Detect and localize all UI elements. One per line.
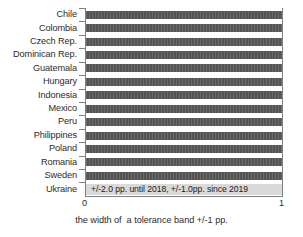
x-tick-label-0: 0 — [82, 199, 87, 208]
x-axis-tick-labels: 0 1 — [85, 199, 283, 213]
y-axis-label-czech-rep: Czech Rep. — [30, 37, 77, 46]
y-axis-label-ukraine: Ukraine — [46, 185, 77, 194]
y-axis-tick-row: Indonesia — [0, 89, 81, 102]
x-tick-label-1: 1 — [279, 199, 284, 208]
bar-slot-hungary — [86, 75, 282, 88]
y-axis-label-mexico: Mexico — [48, 104, 77, 113]
y-axis-label-poland: Poland — [49, 144, 77, 153]
bar-peru — [86, 118, 282, 126]
y-axis-tick-row: Peru — [0, 115, 81, 128]
y-axis-tick-row: Dominican Rep. — [0, 48, 81, 61]
bar-philippines — [86, 132, 282, 140]
y-axis-tick-row: Poland — [0, 142, 81, 155]
bar-mexico — [86, 105, 282, 113]
bar-ukraine: +/-2.0 pp. until 2018, +/-1.0pp. since 2… — [86, 184, 282, 195]
bar-slot-ukraine: +/-2.0 pp. until 2018, +/-1.0pp. since 2… — [86, 182, 282, 195]
bar-slot-poland — [86, 142, 282, 155]
bar-slot-romania — [86, 156, 282, 169]
bar-romania — [86, 158, 282, 166]
bar-slot-dominican-rep — [86, 48, 282, 61]
y-axis-tick-row: Chile — [0, 8, 81, 21]
bar-slot-guatemala — [86, 62, 282, 75]
bar-slot-mexico — [86, 102, 282, 115]
bar-guatemala — [86, 64, 282, 72]
x-tick-mark-0 — [85, 193, 86, 197]
bar-poland — [86, 145, 282, 153]
bar-colombia — [86, 24, 282, 32]
bar-sweden — [86, 172, 282, 180]
bar-slot-colombia — [86, 21, 282, 34]
y-axis-label-philippines: Philippines — [34, 131, 77, 140]
y-axis-label-chile: Chile — [57, 10, 77, 19]
x-axis-line — [85, 196, 283, 197]
x-tick-mark-1 — [282, 193, 283, 197]
y-axis-label-dominican-rep: Dominican Rep. — [13, 50, 77, 59]
y-axis-label-guatemala: Guatemala — [33, 64, 77, 73]
y-axis-label-indonesia: Indonesia — [38, 91, 77, 100]
bar-slot-chile — [86, 8, 282, 21]
bar-slot-sweden — [86, 169, 282, 182]
tolerance-band-bar-chart: Chile Colombia Czech Rep. Dominican Rep.… — [0, 0, 303, 237]
y-axis-tick-row: Philippines — [0, 129, 81, 142]
y-axis-tick-row: Sweden — [0, 169, 81, 182]
bar-dominican-rep — [86, 51, 282, 59]
bar-slot-czech-rep — [86, 35, 282, 48]
y-axis-tick-row: Colombia — [0, 21, 81, 34]
y-axis-tick-row: Czech Rep. — [0, 35, 81, 48]
plot-area: +/-2.0 pp. until 2018, +/-1.0pp. since 2… — [85, 8, 283, 196]
bar-hungary — [86, 78, 282, 86]
y-axis-tick-row: Romania — [0, 156, 81, 169]
bar-slot-indonesia — [86, 89, 282, 102]
x-axis-title: the width of a tolerance band +/-1 pp. — [0, 216, 303, 225]
bars-container: +/-2.0 pp. until 2018, +/-1.0pp. since 2… — [86, 8, 282, 196]
bar-slot-peru — [86, 115, 282, 128]
y-axis-label-romania: Romania — [41, 158, 77, 167]
y-axis-tick-row: Ukraine — [0, 182, 81, 195]
bar-annotation-ukraine: +/-2.0 pp. until 2018, +/-1.0pp. since 2… — [86, 185, 248, 194]
y-axis-tick-row: Guatemala — [0, 62, 81, 75]
bar-slot-philippines — [86, 129, 282, 142]
y-axis-category-labels: Chile Colombia Czech Rep. Dominican Rep.… — [0, 8, 81, 196]
y-axis-label-colombia: Colombia — [39, 24, 77, 33]
bar-indonesia — [86, 91, 282, 99]
y-axis-label-peru: Peru — [58, 117, 77, 126]
bar-czech-rep — [86, 38, 282, 46]
y-axis-label-hungary: Hungary — [43, 77, 77, 86]
bar-chile — [86, 11, 282, 19]
y-axis-tick-row: Mexico — [0, 102, 81, 115]
y-axis-tick-row: Hungary — [0, 75, 81, 88]
y-axis-label-sweden: Sweden — [44, 171, 77, 180]
